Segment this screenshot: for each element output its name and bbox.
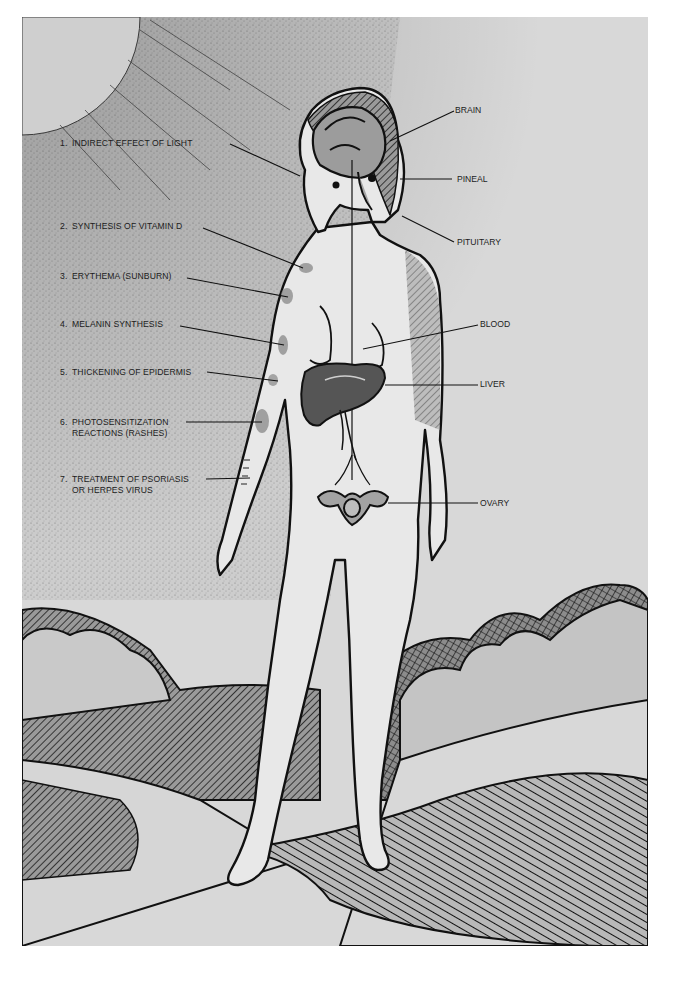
effect-label: 5.THICKENING OF EPIDERMIS — [60, 367, 191, 378]
effect-number: 4. — [60, 319, 72, 330]
effect-number: 7. — [60, 474, 72, 485]
effect-label: 4.MELANIN SYNTHESIS — [60, 319, 163, 330]
effect-number: 1. — [60, 138, 72, 149]
effect-number: 5. — [60, 367, 72, 378]
effect-number: 3. — [60, 271, 72, 282]
pineal-gland — [368, 174, 376, 182]
effect-text: MELANIN SYNTHESIS — [72, 319, 163, 329]
effect-text: ERYTHEMA (SUNBURN) — [72, 271, 172, 281]
effect-label: 6.PHOTOSENSITIZATIONREACTIONS (RASHES) — [60, 417, 169, 439]
organ-label-liver: LIVER — [480, 379, 505, 389]
effect-label: 2.SYNTHESIS OF VITAMIN D — [60, 221, 182, 232]
organ-label-brain: BRAIN — [455, 105, 481, 115]
organ-label-pituitary: PITUITARY — [457, 237, 501, 247]
illustration-plate: 1.INDIRECT EFFECT OF LIGHT2.SYNTHESIS OF… — [22, 17, 648, 946]
effect-number: 2. — [60, 221, 72, 232]
effect-label: 1.INDIRECT EFFECT OF LIGHT — [60, 138, 193, 149]
organ-label-blood: BLOOD — [480, 319, 510, 329]
effect-label: 7.TREATMENT OF PSORIASISOR HERPES VIRUS — [60, 474, 189, 496]
effect-label: 3.ERYTHEMA (SUNBURN) — [60, 271, 172, 282]
effect-text-line2: OR HERPES VIRUS — [60, 485, 189, 496]
effect-text: SYNTHESIS OF VITAMIN D — [72, 221, 182, 231]
effect-text: THICKENING OF EPIDERMIS — [72, 367, 191, 377]
effect-text: INDIRECT EFFECT OF LIGHT — [72, 138, 193, 148]
effect-number: 6. — [60, 417, 72, 428]
pituitary-gland — [333, 182, 340, 189]
effect-text: TREATMENT OF PSORIASIS — [72, 474, 189, 484]
organ-label-pineal: PINEAL — [457, 174, 488, 184]
organ-label-ovary: OVARY — [480, 498, 509, 508]
effect-text-line2: REACTIONS (RASHES) — [60, 428, 169, 439]
effect-text: PHOTOSENSITIZATION — [72, 417, 169, 427]
